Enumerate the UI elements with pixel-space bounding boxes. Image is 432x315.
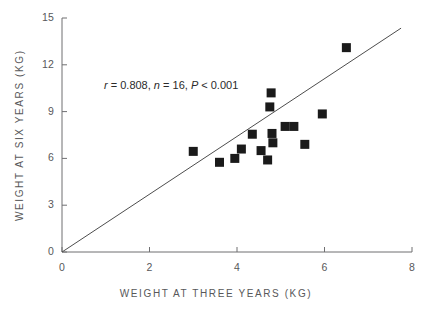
data-point — [318, 109, 327, 118]
y-tick-label: 12 — [20, 58, 54, 70]
x-axis-title: WEIGHT AT THREE YEARS (KG) — [0, 288, 432, 299]
y-tick-label: 3 — [20, 198, 54, 210]
data-point — [257, 146, 266, 155]
y-tick-label: 0 — [20, 245, 54, 257]
y-tick-label: 6 — [20, 151, 54, 163]
scatter-plot-figure: WEIGHT AT SIX YEARS (KG) WEIGHT AT THREE… — [0, 0, 432, 315]
p-value: < 0.001 — [198, 79, 238, 91]
data-markers — [189, 43, 351, 167]
data-point — [289, 122, 298, 131]
data-point — [267, 88, 276, 97]
data-point — [263, 155, 272, 164]
statistics-annotation: r = 0.808, n = 16, P < 0.001 — [104, 79, 238, 91]
y-tick-label: 9 — [20, 105, 54, 117]
x-tick-label: 0 — [47, 261, 77, 273]
x-tick-label: 8 — [397, 261, 427, 273]
x-tick-label: 4 — [222, 261, 252, 273]
y-axis-title: WEIGHT AT SIX YEARS (KG) — [14, 49, 25, 221]
y-tick-label: 15 — [20, 11, 54, 23]
sample-size-value: = 16, — [160, 79, 191, 91]
line-of-equality — [62, 28, 401, 252]
x-tick-label: 2 — [135, 261, 165, 273]
data-point — [237, 145, 246, 154]
data-point — [342, 43, 351, 52]
data-point — [265, 102, 274, 111]
data-point — [268, 138, 277, 147]
data-point — [215, 158, 224, 167]
correlation-value: = 0.808, — [108, 79, 154, 91]
data-point — [248, 130, 257, 139]
data-point — [189, 147, 198, 156]
data-point — [281, 122, 290, 131]
data-point — [268, 129, 277, 138]
data-point — [300, 140, 309, 149]
data-point — [230, 154, 239, 163]
x-tick-label: 6 — [310, 261, 340, 273]
